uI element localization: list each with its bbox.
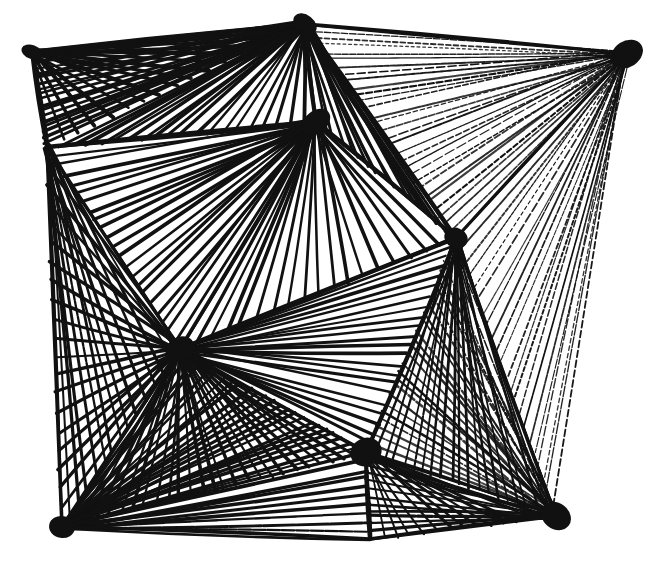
- artwork-canvas: [0, 0, 658, 568]
